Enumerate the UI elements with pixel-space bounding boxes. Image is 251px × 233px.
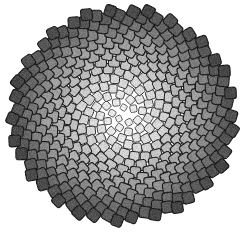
phyllotaxis-figure xyxy=(0,0,251,233)
phyllotaxis-canvas xyxy=(0,0,251,233)
